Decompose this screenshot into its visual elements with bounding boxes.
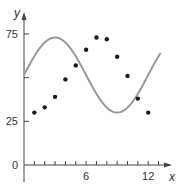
data-point <box>125 74 129 78</box>
data-point <box>63 77 67 81</box>
x-axis-label: x <box>168 170 176 184</box>
data-point <box>115 54 119 58</box>
y-tick-label: 0 <box>12 159 18 171</box>
scatter-chart: 61202575xy <box>0 0 180 188</box>
x-axis-arrow-icon <box>164 163 172 168</box>
data-point <box>53 95 57 99</box>
x-tick-label: 12 <box>142 170 154 182</box>
data-point <box>43 105 47 109</box>
y-axis-arrow-icon <box>22 12 27 20</box>
x-tick-label: 6 <box>83 170 89 182</box>
y-tick-label: 25 <box>6 115 18 127</box>
sine-curve <box>24 37 161 112</box>
data-point <box>105 37 109 41</box>
data-point <box>74 63 78 67</box>
data-point <box>94 35 98 39</box>
y-tick-label: 75 <box>6 28 18 40</box>
data-point <box>146 110 150 114</box>
data-point <box>84 47 88 51</box>
axis-labels: 61202575xy <box>6 6 176 184</box>
data-point <box>32 110 36 114</box>
data-point <box>136 96 140 100</box>
y-axis-label: y <box>13 6 21 20</box>
fit-curve <box>24 37 161 112</box>
